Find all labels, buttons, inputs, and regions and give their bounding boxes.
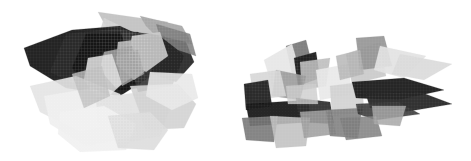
figure-canvas <box>0 0 471 161</box>
right-figure-facet-mesh-23 <box>372 106 406 126</box>
right-figure-facet-mesh-25 <box>286 84 318 104</box>
